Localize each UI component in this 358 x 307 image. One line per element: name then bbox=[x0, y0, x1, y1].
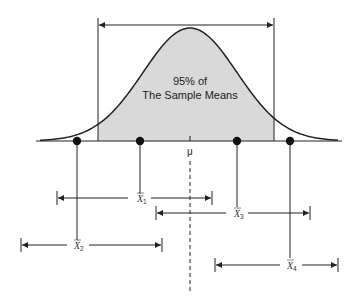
svg-text:3: 3 bbox=[240, 213, 244, 220]
mean-label: μ bbox=[187, 146, 193, 157]
sample-mean-3: X 3 bbox=[156, 137, 310, 220]
sample-mean-4: X 4 bbox=[215, 137, 338, 272]
confidence-interval-diagram: μ 95% of The Sample Means X 1 X 2 X bbox=[0, 0, 358, 307]
svg-text:1: 1 bbox=[143, 198, 147, 205]
svg-text:2: 2 bbox=[80, 245, 84, 252]
svg-text:4: 4 bbox=[293, 265, 297, 272]
label-sample-means: The Sample Means bbox=[142, 89, 238, 101]
label-95-percent: 95% of bbox=[173, 75, 208, 87]
